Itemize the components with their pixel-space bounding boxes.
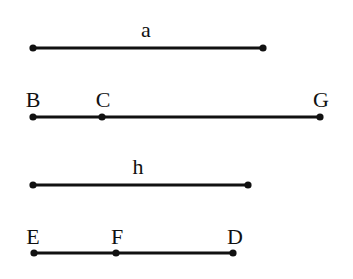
segment-a-left-endpoint — [29, 44, 36, 51]
label-e: E — [26, 226, 39, 248]
diagram-canvas: a B C G h E F D — [0, 0, 353, 279]
point-e — [30, 249, 37, 256]
label-f: F — [111, 226, 123, 248]
segment-h-left-endpoint — [29, 181, 36, 188]
segment-a-right-endpoint — [259, 44, 266, 51]
segment-a — [29, 44, 266, 51]
segment-h — [29, 181, 251, 188]
segments-svg — [0, 0, 353, 279]
label-c: C — [96, 89, 111, 111]
segment-ed — [30, 249, 236, 256]
label-h: h — [133, 156, 144, 178]
label-d: D — [227, 226, 243, 248]
point-c — [98, 113, 105, 120]
segment-h-right-endpoint — [244, 181, 251, 188]
label-a: a — [141, 19, 151, 41]
point-d — [229, 249, 236, 256]
point-g — [316, 113, 323, 120]
point-f — [112, 249, 119, 256]
point-b — [29, 113, 36, 120]
segment-bg — [29, 113, 323, 120]
label-g: G — [313, 89, 329, 111]
label-b: B — [26, 89, 41, 111]
